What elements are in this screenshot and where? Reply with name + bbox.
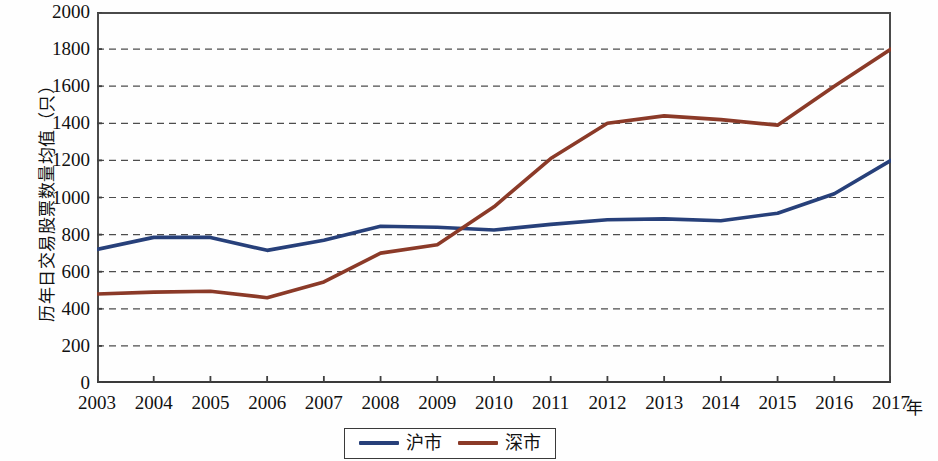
- x-tick-label: 2015: [748, 392, 808, 414]
- x-tick-label: 2009: [407, 392, 467, 414]
- plot-area: [97, 12, 891, 383]
- x-tick-label: 2014: [691, 392, 751, 414]
- y-tick-label: 1400: [28, 113, 90, 132]
- y-tick-label: 0: [28, 373, 90, 392]
- y-tick-label: 800: [28, 225, 90, 244]
- legend-swatch: [359, 441, 399, 445]
- y-tick-label: 200: [28, 336, 90, 355]
- x-tick-label: 2006: [237, 392, 297, 414]
- x-tick-label: 2004: [124, 392, 184, 414]
- chart-container: 历年日交易股票数量均值（只） 0200400600800100012001400…: [0, 0, 938, 461]
- x-tick-label: 2016: [804, 392, 864, 414]
- y-tick-label: 1200: [28, 150, 90, 169]
- x-axis-tick-labels: 2003200420052006200720082009201020112012…: [0, 392, 938, 420]
- y-tick-label: 1800: [28, 39, 90, 58]
- chart-svg-layer: [97, 12, 891, 383]
- y-tick-label: 1000: [28, 188, 90, 207]
- y-tick-label: 2000: [28, 2, 90, 21]
- x-tick-label: 2005: [180, 392, 240, 414]
- x-tick-label: 2013: [634, 392, 694, 414]
- x-tick-label: 2007: [294, 392, 354, 414]
- y-tick-label: 400: [28, 299, 90, 318]
- x-axis-unit-label: 年: [906, 394, 923, 419]
- legend-entry-深市[interactable]: 深市: [458, 433, 541, 453]
- chart-legend: 沪市深市: [344, 428, 556, 459]
- legend-entry-沪市[interactable]: 沪市: [359, 433, 442, 453]
- legend-swatch: [458, 441, 498, 445]
- x-tick-label: 2011: [521, 392, 581, 414]
- x-tick-label: 2008: [351, 392, 411, 414]
- x-tick-label: 2012: [577, 392, 637, 414]
- x-tick-label: 2003: [67, 392, 127, 414]
- legend-label: 深市: [505, 433, 541, 453]
- y-tick-label: 1600: [28, 76, 90, 95]
- x-tick-label: 2010: [464, 392, 524, 414]
- legend-label: 沪市: [406, 433, 442, 453]
- y-tick-label: 600: [28, 262, 90, 281]
